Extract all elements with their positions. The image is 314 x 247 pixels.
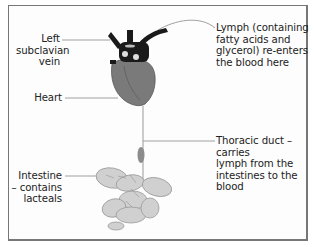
label-line: glycerol) re-enters <box>216 45 312 57</box>
lymph-node-icon <box>138 147 145 163</box>
label-line: Heart <box>16 92 62 104</box>
label-line: the blood here <box>216 57 312 69</box>
label-intestine: Intestine – contains lacteals <box>8 170 62 205</box>
label-line: intestines to the blood <box>216 170 312 193</box>
heart-icon <box>112 60 156 106</box>
label-line: Lymph (containing <box>216 22 312 34</box>
label-line: Thoracic duct – carries <box>216 135 312 158</box>
label-left-subclavian-vein: Left subclavian vein <box>16 33 60 68</box>
label-line: – contains <box>8 182 62 194</box>
label-lymph-reenters-blood: Lymph (containing fatty acids and glycer… <box>216 22 312 68</box>
great-vessels-icon <box>108 28 168 64</box>
label-line: Left <box>16 33 60 45</box>
label-line: lymph from the <box>216 158 312 170</box>
label-line: lacteals <box>8 193 62 205</box>
label-line: Intestine <box>8 170 62 182</box>
label-thoracic-duct: Thoracic duct – carries lymph from the i… <box>216 135 312 193</box>
intestine-icon <box>95 165 174 230</box>
leader-line-lymph-reenters <box>158 20 215 30</box>
label-line: vein <box>16 56 60 68</box>
label-line: fatty acids and <box>216 34 312 46</box>
label-heart: Heart <box>16 92 62 104</box>
label-line: subclavian <box>16 45 60 57</box>
